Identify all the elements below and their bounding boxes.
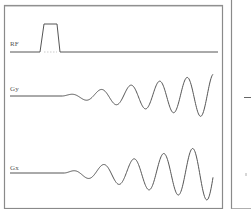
rf-trapezoid-pulse bbox=[10, 24, 218, 52]
rf-channel bbox=[10, 24, 218, 52]
gx-label: Gx bbox=[10, 165, 19, 172]
gx-channel bbox=[10, 148, 213, 199]
diagram-canvas bbox=[0, 0, 251, 209]
pulse-sequence-diagram: RF Gy Gx bbox=[0, 0, 251, 209]
rf-label: RF bbox=[10, 41, 19, 48]
gy-channel bbox=[10, 74, 213, 116]
gx-waveform bbox=[10, 148, 213, 199]
gy-label: Gy bbox=[10, 86, 19, 93]
gy-waveform bbox=[10, 74, 213, 116]
